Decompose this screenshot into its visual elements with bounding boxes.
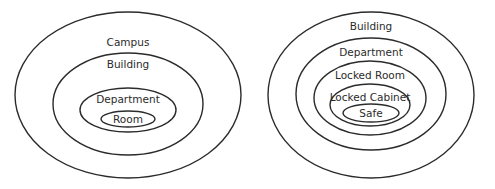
building-label: Building [107, 58, 150, 70]
nested-ellipse-diagrams: CampusBuildingDepartmentRoomBuildingDepa… [0, 0, 495, 189]
department-label: Department [96, 93, 160, 105]
room-label: Room [113, 113, 143, 125]
locked-room-label: Locked Room [335, 69, 405, 81]
locked-cabinet-label: Locked Cabinet [330, 91, 411, 103]
campus-hierarchy-diagram: CampusBuildingDepartmentRoom [15, 12, 241, 178]
department-label: Department [339, 46, 403, 58]
safe-label: Safe [359, 107, 382, 119]
building-label: Building [350, 20, 393, 32]
campus-label: Campus [107, 36, 150, 48]
building-hierarchy-diagram: BuildingDepartmentLocked RoomLocked Cabi… [268, 12, 474, 178]
